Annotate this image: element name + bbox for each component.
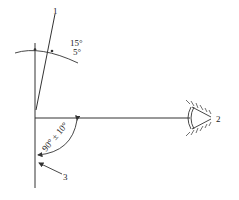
label-1: 1: [53, 6, 58, 16]
angle-label-5: 5°: [73, 47, 82, 57]
label-2: 2: [216, 114, 221, 124]
diagram-svg: 1 2 3 15° 5° 90° ± 10°: [0, 0, 239, 200]
leader-line-3: [39, 163, 62, 174]
label-3: 3: [63, 172, 68, 182]
angle-label-90: 90° ± 10°: [40, 120, 70, 153]
slanted-line-1: [36, 14, 55, 110]
diagram-canvas: 1 2 3 15° 5° 90° ± 10°: [0, 0, 239, 200]
